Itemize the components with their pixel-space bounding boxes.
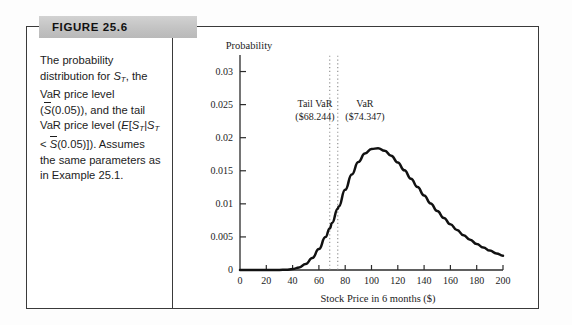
caption-line-6: < S(0.05)]). Assumes xyxy=(40,137,164,153)
caption-line-8: in Example 25.1. xyxy=(40,168,164,184)
x-tick-label: 120 xyxy=(390,275,405,286)
x-axis-ticks: 020406080100120140160180200 xyxy=(238,265,511,286)
x-tick-label: 60 xyxy=(314,275,324,286)
var-label-line1: VaR xyxy=(356,98,374,109)
annotation-vertical-lines xyxy=(330,56,338,270)
x-tick-label: 200 xyxy=(496,275,511,286)
probability-distribution-chart: Probability 00.0050.010.0150.020.0250.03… xyxy=(173,27,538,308)
caption-line-5: VaR price level (E[ST|ST xyxy=(40,118,164,137)
y-tick-label: 0.02 xyxy=(216,132,234,143)
tail-var-label-line1: Tail VaR xyxy=(297,98,332,109)
y-tick-label: 0.01 xyxy=(216,198,234,209)
x-axis-title: Stock Price in 6 months ($) xyxy=(320,293,436,305)
x-tick-label: 20 xyxy=(261,275,271,286)
x-tick-label: 40 xyxy=(288,275,298,286)
y-axis-title: Probability xyxy=(226,40,273,51)
y-tick-label: 0.005 xyxy=(211,231,234,242)
chart-svg: Probability 00.0050.010.0150.020.0250.03… xyxy=(173,27,538,308)
y-tick-label: 0 xyxy=(228,264,233,275)
y-axis-ticks: 00.0050.010.0150.020.0250.03 xyxy=(211,66,247,275)
caption-line-2: distribution for ST, the xyxy=(40,69,164,88)
var-label-line2: ($74.347) xyxy=(345,111,384,123)
caption-line-7: the same parameters as xyxy=(40,153,164,169)
x-tick-label: 100 xyxy=(364,275,379,286)
x-tick-label: 160 xyxy=(443,275,458,286)
caption-line-3: VaR price level xyxy=(40,87,164,103)
tail-var-label-line2: ($68.244) xyxy=(295,111,334,123)
caption-line-1: The probability xyxy=(40,53,164,69)
x-tick-label: 140 xyxy=(417,275,432,286)
x-tick-label: 80 xyxy=(340,275,350,286)
y-tick-label: 0.025 xyxy=(211,99,234,110)
figure-screenshot: FIGURE 25.6 The probability distribution… xyxy=(0,0,572,325)
figure-number-label: FIGURE 25.6 xyxy=(39,21,128,33)
x-tick-label: 0 xyxy=(238,275,243,286)
figure-caption-text: The probability distribution for ST, the… xyxy=(40,53,164,184)
figure-caption-column: FIGURE 25.6 The probability distribution… xyxy=(27,27,173,308)
caption-line-4: (S(0.05)), and the tail xyxy=(40,103,164,119)
x-tick-label: 180 xyxy=(469,275,484,286)
y-tick-label: 0.03 xyxy=(216,66,234,77)
lognormal-density-curve xyxy=(240,148,503,270)
y-tick-label: 0.015 xyxy=(211,165,234,176)
